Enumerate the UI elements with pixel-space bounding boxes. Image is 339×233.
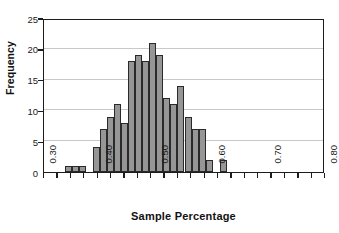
x-tick-mark [244,173,245,178]
x-tick-mark [311,173,312,178]
x-tick-label: 0.40 [103,145,114,179]
x-tick-mark [123,173,124,178]
y-tick-mark [38,111,43,112]
x-tick-mark [257,173,258,178]
y-axis-title: Frequency [4,18,16,118]
x-tick-label: 0.80 [328,145,339,179]
histogram-bar [65,166,72,172]
clipped-header-strip: Sun Solution 2Ct 4Ot [0,0,332,5]
histogram-bar [142,61,149,172]
histogram-bar [206,160,213,172]
x-axis-title: Sample Percentage [43,210,324,222]
x-tick-mark [150,173,151,178]
x-tick-mark [97,173,98,178]
x-tick-mark [43,173,44,178]
x-tick-mark [70,173,71,178]
x-tick-label: 0.60 [216,145,227,179]
histogram-bar [170,104,177,172]
histogram-bar [79,166,86,172]
x-tick-mark [324,173,325,178]
x-tick-label: 0.50 [159,145,170,179]
y-tick-mark [38,49,43,50]
y-tick-label: 10 [12,107,38,116]
histogram-bar [72,166,79,172]
x-tick-mark [297,173,298,178]
y-tick-mark [38,142,43,143]
x-tick-mark [83,173,84,178]
histogram-bar [149,43,156,172]
histogram-bar [128,61,135,172]
x-tick-mark [204,173,205,178]
y-tick-label: 25 [12,15,38,24]
histogram-bar [192,129,199,172]
y-tick-label: 5 [12,138,38,147]
histogram-bar [177,86,184,172]
x-tick-mark [137,173,138,178]
histogram-bar [199,129,206,172]
y-tick-label: 15 [12,76,38,85]
y-tick-label: 20 [12,45,38,54]
x-tick-label: 0.70 [272,145,283,179]
x-tick-mark [230,173,231,178]
y-tick-label: 0 [12,169,38,178]
histogram-bar [185,117,192,172]
y-tick-mark [38,80,43,81]
clipped-header-text: Sun Solution 2Ct 4Ot [232,0,326,1]
histogram-bar [93,147,100,172]
histogram-bar [135,55,142,172]
histogram-bar [121,123,128,172]
x-tick-mark [190,173,191,178]
x-tick-label: 0.30 [47,145,58,179]
histogram-bar [114,104,121,172]
y-tick-mark [38,18,43,19]
x-tick-mark [177,173,178,178]
x-tick-mark [284,173,285,178]
